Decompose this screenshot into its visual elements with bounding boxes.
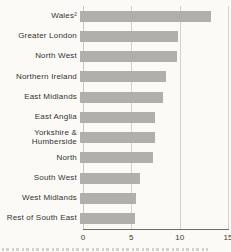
bar xyxy=(80,92,163,103)
bar-track xyxy=(80,132,225,143)
category-label: Greater London xyxy=(0,32,80,41)
category-label: South West xyxy=(0,174,80,183)
bar xyxy=(80,173,140,184)
bar-track xyxy=(80,152,225,163)
bar-row: Greater London xyxy=(0,26,231,46)
bar xyxy=(80,152,153,163)
bar xyxy=(80,112,155,123)
bar-track xyxy=(80,92,225,103)
category-label: North xyxy=(0,154,80,163)
bar-track xyxy=(80,71,225,82)
category-label: Yorkshire & Humberside xyxy=(0,129,80,146)
category-label: West Midlands xyxy=(0,194,80,203)
x-tick-label: 10 xyxy=(170,233,190,242)
bar-row: Northern Ireland xyxy=(0,67,231,87)
category-label: Wales² xyxy=(0,12,80,21)
bar xyxy=(80,51,177,62)
bar xyxy=(80,132,155,143)
bar-row: North West xyxy=(0,47,231,67)
category-label: East Anglia xyxy=(0,113,80,122)
bar-row: South West xyxy=(0,168,231,188)
x-axis-tick-labels: 051015 xyxy=(83,233,228,243)
bar-row: West Midlands xyxy=(0,188,231,208)
x-tick-label: 15 xyxy=(218,233,231,242)
bar xyxy=(80,11,211,22)
bar xyxy=(80,213,135,224)
bar-row: Yorkshire & Humberside xyxy=(0,128,231,148)
category-label: East Midlands xyxy=(0,93,80,102)
bar-row: Rest of South East xyxy=(0,209,231,229)
bar xyxy=(80,31,178,42)
x-tick-label: 5 xyxy=(121,233,141,242)
bar-row: Wales² xyxy=(0,6,231,26)
bar-track xyxy=(80,51,225,62)
bar-row: East Midlands xyxy=(0,87,231,107)
bar-track xyxy=(80,173,225,184)
bar xyxy=(80,193,136,204)
bar-track xyxy=(80,193,225,204)
category-label: Rest of South East xyxy=(0,214,80,223)
bar-track xyxy=(80,213,225,224)
x-axis-line xyxy=(83,229,229,230)
bar-track xyxy=(80,112,225,123)
category-label: Northern Ireland xyxy=(0,73,80,82)
bar-track xyxy=(80,31,225,42)
bar-row: North xyxy=(0,148,231,168)
bar xyxy=(80,71,166,82)
bar-rows: Wales² Greater London North West Norther… xyxy=(0,6,231,229)
bar-chart: Wales² Greater London North West Norther… xyxy=(0,0,231,252)
category-label: North West xyxy=(0,52,80,61)
x-tick-label: 0 xyxy=(73,233,93,242)
cropped-footnote-text xyxy=(2,248,208,251)
bar-track xyxy=(80,11,225,22)
bar-row: East Anglia xyxy=(0,107,231,127)
